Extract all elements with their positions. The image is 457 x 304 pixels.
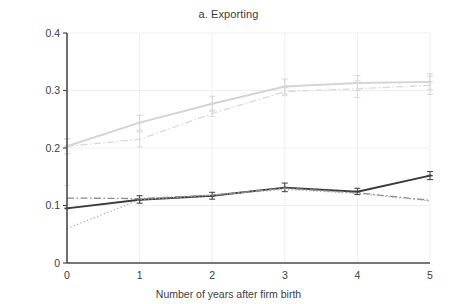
chart-figure: a. Exporting Probability that the firm e… bbox=[0, 0, 457, 304]
x-tick-label: 3 bbox=[282, 269, 288, 281]
x-tick-label: 0 bbox=[64, 269, 70, 281]
series-gray-dashdot-lower bbox=[67, 188, 430, 200]
tick-labels-layer: 00.10.20.30.4012345 bbox=[45, 27, 433, 281]
series-line bbox=[67, 189, 430, 228]
series-light-gray-dashdot-upper bbox=[64, 76, 433, 185]
series-light-gray-solid-upper bbox=[64, 74, 433, 154]
x-tick-label: 1 bbox=[137, 269, 143, 281]
x-axis-label: Number of years after firm birth bbox=[0, 288, 457, 300]
series-line bbox=[67, 82, 430, 146]
gridlines bbox=[67, 33, 430, 263]
plot-area: 00.10.20.30.4012345 bbox=[0, 0, 457, 304]
series-line bbox=[67, 188, 430, 200]
series-gray-dotted-lower bbox=[67, 189, 430, 228]
x-tick-label: 4 bbox=[354, 269, 360, 281]
series-dark-gray-solid-lower bbox=[64, 172, 433, 209]
x-tick-label: 2 bbox=[209, 269, 215, 281]
y-tick-label: 0.3 bbox=[45, 84, 60, 96]
y-tick-label: 0.2 bbox=[45, 142, 60, 154]
y-tick-label: 0.1 bbox=[45, 199, 60, 211]
y-tick-label: 0 bbox=[54, 257, 60, 269]
y-tick-label: 0.4 bbox=[45, 27, 60, 39]
x-tick-label: 5 bbox=[427, 269, 433, 281]
